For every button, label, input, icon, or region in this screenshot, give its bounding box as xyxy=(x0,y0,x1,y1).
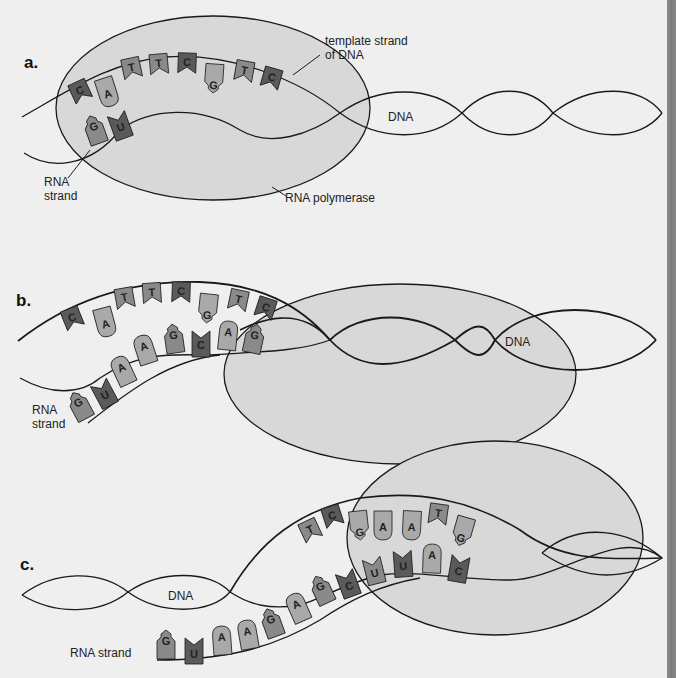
nucleotide-letter: T xyxy=(148,286,156,298)
panel-b: b. C A T T C G T C G U A A G C A G DNA R… xyxy=(16,282,656,464)
nucleotide-letter: C xyxy=(183,56,191,68)
dna-helix-upper xyxy=(22,576,230,596)
nucleotide-letter: G xyxy=(355,526,365,539)
nucleotide-letter: G xyxy=(202,309,212,322)
dna-helix-lower xyxy=(22,592,230,610)
rna-strand-label: RNA xyxy=(44,175,69,189)
dna-label: DNA xyxy=(505,335,530,349)
dna-label: DNA xyxy=(388,110,413,124)
page-edge-strip xyxy=(667,0,676,678)
diagram-canvas: a. C A T T C G T C G U template strand o… xyxy=(0,0,676,678)
rna-polymerase-ellipse xyxy=(347,441,643,635)
nucleotide-letter: G xyxy=(162,635,171,647)
nucleotide-letter: G xyxy=(168,329,178,342)
rna-polymerase-ellipse xyxy=(224,284,576,464)
rna-strand-label: RNA xyxy=(32,403,57,417)
nucleotide-letter: C xyxy=(197,339,205,351)
nucleotide-letter: U xyxy=(190,648,198,660)
template-strand-label-2: of DNA xyxy=(325,48,364,62)
rna-strand-label-2: strand xyxy=(44,189,77,203)
nucleotide-letter: A xyxy=(217,631,226,644)
rna-polymerase-ellipse xyxy=(56,16,370,200)
panel-a: a. C A T T C G T C G U template strand o… xyxy=(22,16,662,205)
panel-c: c. T C G A A T G G U A A G A G C xyxy=(20,441,662,664)
rna-strand-label-2: strand xyxy=(32,417,65,431)
nucleotide-letter: G xyxy=(209,79,218,92)
transcription-diagram: a. C A T T C G T C G U template strand o… xyxy=(0,0,676,678)
nucleotide-letter: U xyxy=(399,560,408,573)
panel-c-label: c. xyxy=(20,555,34,574)
panel-b-label: b. xyxy=(16,291,31,310)
nucleotide-letter: A xyxy=(379,521,387,533)
dna-label: DNA xyxy=(168,589,193,603)
nucleotide-letter: A xyxy=(224,326,233,339)
template-strand-label: template strand xyxy=(325,34,408,48)
nucleotide-letter: T xyxy=(155,57,163,70)
nucleotide-letter: A xyxy=(407,521,416,533)
panel-a-label: a. xyxy=(24,53,38,72)
nucleotide-letter: A xyxy=(428,549,436,561)
nucleotide-letter: C xyxy=(177,285,185,297)
rna-strand-label: RNA strand xyxy=(70,646,131,660)
rna-polymerase-label: RNA polymerase xyxy=(285,191,375,205)
